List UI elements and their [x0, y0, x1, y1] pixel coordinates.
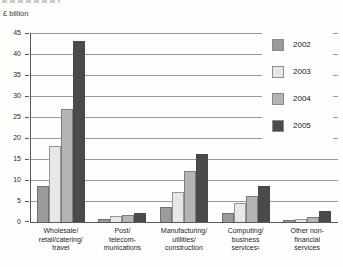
- bar-2004-category-2: [184, 171, 196, 222]
- bar-2005-category-3: [258, 186, 270, 222]
- x-category-label-1: Post/ telecom- munications: [92, 227, 154, 253]
- legend: 2002200320042005: [262, 30, 333, 146]
- y-tick-mark-40: [25, 54, 29, 55]
- x-category-label-3: Computing/ business services¹: [215, 227, 277, 253]
- y-tick-label-25: 25: [13, 113, 21, 121]
- bar-2002-category-3: [222, 213, 234, 222]
- legend-swatch-2002: [272, 39, 284, 51]
- y-axis-line: [30, 33, 31, 223]
- x-axis-labels: Wholesale/ retail/catering/ travelPost/ …: [30, 227, 338, 253]
- y-axis-labels: 051015202530354045: [0, 33, 30, 222]
- legend-item-2002: 2002: [262, 38, 333, 51]
- y-tick-label-20: 20: [13, 134, 21, 142]
- y-tick-mark-10: [25, 180, 29, 181]
- x-category-label-4: Other non- financial services: [276, 227, 338, 253]
- y-tick-mark-30: [25, 96, 29, 97]
- bar-2002-category-2: [160, 207, 172, 222]
- y-tick-label-35: 35: [13, 71, 21, 79]
- legend-swatch-2005: [272, 120, 284, 132]
- y-tick-label-5: 5: [17, 197, 21, 205]
- y-tick-mark-25: [25, 117, 29, 118]
- bar-2004-category-1: [122, 215, 134, 222]
- bar-2005-category-4: [319, 211, 331, 222]
- y-tick-mark-0: [25, 221, 29, 222]
- x-axis-line: [30, 222, 338, 223]
- legend-item-2005: 2005: [262, 119, 333, 132]
- y-tick-label-15: 15: [13, 155, 21, 163]
- legend-item-2004: 2004: [262, 92, 333, 105]
- y-tick-label-0: 0: [17, 218, 21, 226]
- bar-2003-category-0: [49, 146, 61, 222]
- legend-label-2004: 2004: [293, 94, 311, 103]
- bar-2005-category-2: [196, 154, 208, 222]
- x-category-label-0: Wholesale/ retail/catering/ travel: [30, 227, 92, 253]
- y-tick-mark-15: [25, 159, 29, 160]
- bar-2003-category-2: [172, 192, 184, 222]
- y-tick-label-10: 10: [13, 176, 21, 184]
- y-tick-mark-35: [25, 75, 29, 76]
- clipped-title-fragment: [2, 0, 60, 3]
- y-axis-unit-label: £ billion: [3, 9, 28, 18]
- legend-item-2003: 2003: [262, 65, 333, 78]
- bar-2002-category-0: [37, 186, 49, 222]
- legend-label-2005: 2005: [293, 121, 311, 130]
- legend-swatch-2003: [272, 66, 284, 78]
- y-tick-label-45: 45: [13, 29, 21, 37]
- y-tick-mark-5: [25, 201, 29, 202]
- legend-label-2003: 2003: [293, 67, 311, 76]
- y-tick-label-30: 30: [13, 92, 21, 100]
- bar-2005-category-0: [73, 41, 85, 222]
- legend-swatch-2004: [272, 93, 284, 105]
- bar-group-1: [92, 33, 154, 222]
- y-tick-mark-20: [25, 138, 29, 139]
- x-category-label-2: Manufacturing/ utilities/ construction: [153, 227, 215, 253]
- legend-label-2002: 2002: [293, 40, 311, 49]
- bar-2004-category-0: [61, 109, 73, 222]
- y-tick-mark-45: [25, 33, 29, 34]
- bar-group-2: [153, 33, 215, 222]
- y-tick-label-40: 40: [13, 50, 21, 58]
- bar-group-0: [30, 33, 92, 222]
- chart-figure: £ billion 051015202530354045 Wholesale/ …: [0, 0, 343, 267]
- bar-2004-category-3: [246, 196, 258, 222]
- bar-2003-category-3: [234, 203, 246, 222]
- bar-2005-category-1: [134, 213, 146, 222]
